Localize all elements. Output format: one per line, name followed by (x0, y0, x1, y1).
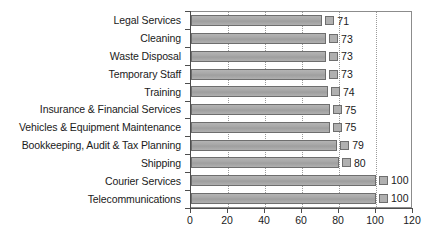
bar (191, 51, 326, 62)
x-axis-tick-label: 0 (187, 214, 193, 226)
bar-value-label: 100 (391, 192, 409, 204)
bar-chart: Legal ServicesCleaningWaste DisposalTemp… (0, 0, 432, 235)
bar-row: 73 (191, 47, 411, 65)
bar-end-marker-group: 73 (326, 50, 353, 62)
bar-end-marker-group: 73 (326, 33, 353, 45)
category-label: Telecommunications (0, 190, 186, 208)
y-axis-tick (185, 47, 190, 48)
bar-value-label: 73 (341, 33, 353, 45)
y-axis-tick (185, 83, 190, 84)
category-label: Courier Services (0, 172, 186, 190)
bar (191, 175, 376, 186)
bar (191, 140, 337, 151)
square-marker-icon (379, 176, 388, 185)
bar-value-label: 71 (337, 15, 349, 27)
square-marker-icon (333, 105, 342, 114)
square-marker-icon (329, 70, 338, 79)
bar (191, 157, 339, 168)
y-axis-ticks (185, 11, 190, 208)
y-axis-tick (185, 101, 190, 102)
bar-end-marker-group: 73 (326, 68, 353, 80)
bar-value-label: 75 (345, 121, 357, 133)
x-axis-tick (338, 209, 339, 213)
bar-row: 100 (191, 189, 411, 207)
square-marker-icon (325, 16, 334, 25)
x-axis-tick (301, 209, 302, 213)
x-axis-tick (190, 209, 191, 213)
y-axis-tick (185, 136, 190, 137)
bar-end-marker-group: 100 (376, 174, 409, 186)
square-marker-icon (331, 87, 340, 96)
bar-end-marker-group: 79 (337, 139, 364, 151)
bar-row: 79 (191, 136, 411, 154)
bar (191, 69, 326, 80)
bar-row: 71 (191, 12, 411, 30)
bar-value-label: 73 (341, 68, 353, 80)
y-axis-tick (185, 65, 190, 66)
y-axis-tick (185, 11, 190, 12)
bar-row: 75 (191, 118, 411, 136)
square-marker-icon (329, 34, 338, 43)
x-axis-tick (264, 209, 265, 213)
bar (191, 122, 330, 133)
x-axis-tick-label: 100 (366, 214, 384, 226)
square-marker-icon (342, 158, 351, 167)
bar (191, 193, 376, 204)
bar-value-label: 100 (391, 174, 409, 186)
bar-value-label: 79 (352, 139, 364, 151)
bar-row: 74 (191, 83, 411, 101)
bar-end-marker-group: 71 (322, 15, 349, 27)
y-axis-tick (185, 154, 190, 155)
category-label: Shipping (0, 154, 186, 172)
x-axis-tick-label: 120 (403, 214, 421, 226)
x-axis-tick-label: 60 (295, 214, 307, 226)
bar-end-marker-group: 75 (330, 121, 357, 133)
square-marker-icon (333, 123, 342, 132)
category-label: Training (0, 83, 186, 101)
bar (191, 33, 326, 44)
bar-end-marker-group: 100 (376, 192, 409, 204)
category-label: Waste Disposal (0, 47, 186, 65)
bar-row: 73 (191, 65, 411, 83)
bar-end-marker-group: 75 (330, 104, 357, 116)
square-marker-icon (329, 52, 338, 61)
bar-end-marker-group: 74 (328, 86, 355, 98)
bar (191, 15, 322, 26)
bar-end-marker-group: 80 (339, 157, 366, 169)
bar-value-label: 80 (354, 157, 366, 169)
bar (191, 104, 330, 115)
y-axis-tick (185, 190, 190, 191)
x-axis-tick (375, 209, 376, 213)
square-marker-icon (340, 141, 349, 150)
x-axis-tick (227, 209, 228, 213)
x-axis-tick-label: 80 (332, 214, 344, 226)
bar (191, 86, 328, 97)
square-marker-icon (379, 194, 388, 203)
x-axis-tick-label: 20 (221, 214, 233, 226)
y-axis-line (190, 11, 191, 209)
bar-row: 100 (191, 172, 411, 190)
y-axis-tick (185, 29, 190, 30)
bar-value-label: 73 (341, 50, 353, 62)
category-label: Insurance & Financial Services (0, 101, 186, 119)
bar-row: 73 (191, 30, 411, 48)
bar-row: 80 (191, 154, 411, 172)
category-axis-labels: Legal ServicesCleaningWaste DisposalTemp… (0, 11, 186, 208)
category-label: Vehicles & Equipment Maintenance (0, 118, 186, 136)
plot-area: 717373737475757980100100 (190, 11, 412, 208)
bar-series: 717373737475757980100100 (191, 12, 411, 207)
category-label: Legal Services (0, 11, 186, 29)
y-axis-tick (185, 118, 190, 119)
bar-value-label: 75 (345, 104, 357, 116)
bar-value-label: 74 (343, 86, 355, 98)
category-label: Bookkeeping, Audit & Tax Planning (0, 136, 186, 154)
y-axis-tick (185, 172, 190, 173)
category-label: Cleaning (0, 29, 186, 47)
x-axis-tick (412, 209, 413, 213)
bar-row: 75 (191, 101, 411, 119)
x-axis-tick-label: 40 (258, 214, 270, 226)
category-label: Temporary Staff (0, 65, 186, 83)
